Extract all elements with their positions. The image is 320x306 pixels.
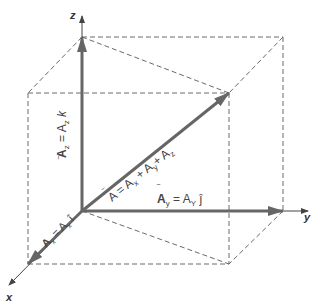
ay-label: Ay = AY ĵ ‾ — [156, 184, 203, 208]
svg-text:Ax = Ax î: Ax = Ax î — [39, 212, 78, 251]
svg-text:Az = Az k: Az = Az k — [55, 110, 71, 158]
vector-diagram: z y x Az = Az k ‾ A = Ax + Ay+ Az ‾ Ay =… — [0, 0, 320, 306]
svg-text:Ay = AY ĵ: Ay = AY ĵ — [157, 192, 203, 208]
az-label: Az = Az k — [55, 110, 71, 158]
z-axis-label: z — [69, 9, 76, 21]
svg-text:A = Ax + Ay+ Az: A = Ax + Ay+ Az — [105, 144, 177, 206]
y-axis-label: y — [303, 211, 311, 223]
ax-label: Ax = Ax î — [39, 212, 78, 251]
x-axis-label: x — [5, 291, 13, 303]
